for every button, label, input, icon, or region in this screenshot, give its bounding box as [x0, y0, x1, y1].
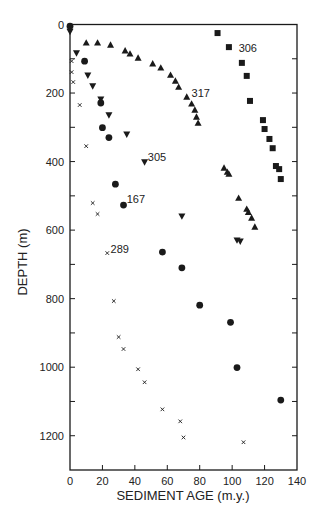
triangle-up-marker-icon: [83, 39, 90, 45]
square-marker-icon: [247, 98, 253, 104]
x-tick-label: 80: [194, 475, 206, 487]
x-tick-label: 40: [129, 475, 141, 487]
y-tick-label: 0: [58, 19, 64, 31]
circle-marker-icon: [277, 397, 284, 404]
triangle-up-marker-icon: [221, 164, 228, 170]
cross-marker-icon: [122, 347, 126, 351]
triangle-up-marker-icon: [167, 71, 174, 77]
cross-marker-icon: [78, 103, 82, 107]
tick-labels: 020406080100120140020040060080010001200: [40, 19, 307, 488]
cross-marker-icon: [105, 251, 109, 255]
triangle-down-marker-icon: [123, 132, 130, 138]
series-label-289: 289: [111, 243, 129, 255]
triangle-up-marker-icon: [157, 64, 164, 70]
triangle-down-marker-icon: [67, 29, 74, 35]
triangle-up-marker-icon: [135, 54, 142, 60]
square-marker-icon: [266, 136, 272, 142]
triangle-up-marker-icon: [191, 106, 198, 112]
triangle-down-marker-icon: [105, 112, 112, 118]
square-marker-icon: [215, 30, 221, 36]
square-marker-icon: [226, 44, 232, 50]
triangle-up-marker-icon: [149, 60, 156, 66]
cross-marker-icon: [178, 420, 182, 424]
y-tick-label: 600: [46, 224, 64, 236]
x-tick-label: 0: [67, 475, 73, 487]
cross-marker-icon: [136, 367, 140, 371]
cross-marker-icon: [242, 440, 246, 444]
triangle-up-marker-icon: [188, 100, 195, 106]
tick-marks: [70, 25, 297, 471]
x-tick-label: 20: [96, 475, 108, 487]
depth-vs-age-scatter: 020406080100120140020040060080010001200 …: [0, 0, 320, 523]
circle-marker-icon: [97, 100, 104, 107]
cross-marker-icon: [91, 201, 95, 205]
axes: [70, 25, 297, 471]
square-marker-icon: [260, 117, 266, 123]
circle-marker-icon: [178, 264, 185, 271]
triangle-down-marker-icon: [73, 50, 80, 56]
triangle-up-marker-icon: [248, 214, 255, 220]
triangle-down-marker-icon: [84, 73, 91, 79]
triangle-up-marker-icon: [172, 77, 179, 83]
triangle-up-marker-icon: [122, 47, 129, 53]
cross-marker-icon: [143, 380, 147, 384]
circle-marker-icon: [112, 181, 119, 188]
triangle-up-marker-icon: [195, 119, 202, 125]
triangle-up-marker-icon: [235, 194, 242, 200]
y-tick-label: 800: [46, 293, 64, 305]
series-label-317: 317: [192, 87, 210, 99]
y-tick-label: 1200: [40, 430, 64, 442]
series-label-167: 167: [127, 193, 145, 205]
cross-marker-icon: [182, 436, 186, 440]
y-tick-label: 200: [46, 87, 64, 99]
circle-marker-icon: [196, 302, 203, 309]
triangle-down-marker-icon: [178, 213, 185, 219]
cross-marker-icon: [112, 299, 116, 303]
data-points: [67, 23, 285, 444]
y-tick-label: 1000: [40, 361, 64, 373]
x-tick-label: 120: [255, 475, 273, 487]
square-marker-icon: [244, 73, 250, 79]
x-tick-label: 140: [288, 475, 306, 487]
triangle-up-marker-icon: [183, 93, 190, 99]
circle-marker-icon: [67, 23, 74, 30]
plot-frame: [70, 25, 297, 471]
circle-marker-icon: [159, 249, 166, 256]
circle-marker-icon: [106, 134, 113, 141]
triangle-up-marker-icon: [251, 223, 258, 229]
series-label-305: 305: [148, 151, 166, 163]
triangle-down-marker-icon: [89, 83, 96, 89]
series-labels: 306317305167289: [111, 42, 257, 254]
square-marker-icon: [239, 60, 245, 66]
cross-marker-icon: [96, 212, 100, 216]
square-marker-icon: [276, 166, 282, 172]
triangle-up-marker-icon: [94, 39, 101, 45]
y-tick-label: 400: [46, 156, 64, 168]
square-marker-icon: [270, 145, 276, 151]
square-marker-icon: [278, 176, 284, 182]
triangle-up-marker-icon: [175, 83, 182, 89]
triangle-up-marker-icon: [107, 41, 114, 47]
triangle-up-marker-icon: [193, 113, 200, 119]
series-label-306: 306: [239, 42, 257, 54]
y-axis-title: DEPTH (m): [15, 228, 30, 295]
cross-marker-icon: [71, 80, 75, 84]
cross-marker-icon: [84, 144, 88, 148]
x-tick-label: 60: [161, 475, 173, 487]
circle-marker-icon: [234, 364, 241, 371]
cross-marker-icon: [161, 408, 165, 412]
x-axis-title: SEDIMENT AGE (m.y.): [116, 488, 249, 503]
circle-marker-icon: [99, 124, 106, 131]
cross-marker-icon: [117, 335, 121, 339]
circle-marker-icon: [227, 319, 234, 326]
x-tick-label: 100: [223, 475, 241, 487]
circle-marker-icon: [81, 58, 88, 65]
square-marker-icon: [262, 126, 268, 132]
